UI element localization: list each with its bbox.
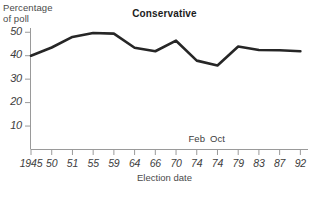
x-axis-ticks: [31, 150, 300, 156]
x-tick-label-13: 92: [283, 157, 317, 169]
y-tick-label-30: 30: [0, 72, 22, 84]
y-tick-label-50: 50: [0, 25, 22, 37]
conservative-series-line: [31, 33, 300, 66]
conservative-vote-share-chart: Percentage of poll Conservative 10203040…: [0, 0, 329, 205]
y-axis-ticks: [25, 32, 31, 126]
x-annotation-oct: Oct: [200, 133, 234, 144]
y-tick-label-10: 10: [0, 119, 22, 131]
x-axis-title: Election date: [0, 172, 329, 183]
y-tick-label-40: 40: [0, 48, 22, 60]
y-tick-label-20: 20: [0, 95, 22, 107]
